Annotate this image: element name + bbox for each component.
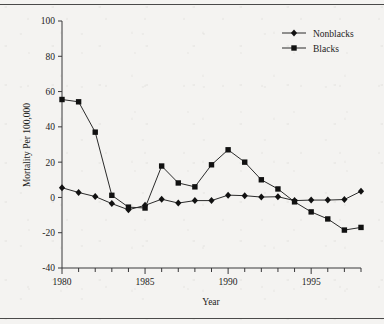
series-blacks bbox=[59, 97, 363, 233]
data-point-nonblacks-1981 bbox=[76, 189, 82, 196]
data-point-blacks-1987 bbox=[176, 180, 181, 185]
data-point-blacks-1995 bbox=[308, 209, 313, 214]
y-tick-label-0: 0 bbox=[50, 193, 55, 203]
y-axis-title: Mortality Per 100,000 bbox=[22, 103, 32, 187]
axis-lines bbox=[62, 21, 361, 268]
chart-canvas: -40-20020406080100 1980198519901995 Mort… bbox=[0, 0, 384, 324]
data-point-nonblacks-1987 bbox=[175, 200, 181, 207]
data-point-blacks-1993 bbox=[275, 186, 280, 191]
x-axis-title: Year bbox=[202, 297, 220, 307]
data-point-blacks-1992 bbox=[259, 177, 264, 182]
y-tick-label--20: -20 bbox=[42, 228, 55, 238]
legend-entry-nonblacks[interactable]: Nonblacks bbox=[282, 29, 354, 39]
x-tick-label-1990: 1990 bbox=[219, 277, 238, 287]
chart-legend: NonblacksBlacks bbox=[282, 29, 354, 54]
data-point-nonblacks-1989 bbox=[208, 197, 214, 204]
x-axis-ticks: 1980198519901995 bbox=[53, 268, 362, 287]
x-tick-label-1980: 1980 bbox=[53, 277, 72, 287]
legend-label-nonblacks: Nonblacks bbox=[313, 29, 354, 39]
data-point-blacks-1997 bbox=[342, 227, 347, 232]
data-point-blacks-1998 bbox=[358, 225, 363, 230]
y-tick-label-100: 100 bbox=[41, 16, 56, 26]
y-axis-ticks: -40-20020406080100 bbox=[41, 16, 62, 273]
x-tick-label-1985: 1985 bbox=[136, 277, 155, 287]
y-tick-label-60: 60 bbox=[46, 87, 56, 97]
data-point-nonblacks-1982 bbox=[92, 193, 98, 200]
x-tick-label-1995: 1995 bbox=[302, 277, 321, 287]
data-point-blacks-1989 bbox=[209, 162, 214, 167]
series-nonblacks bbox=[59, 184, 364, 213]
data-point-blacks-1980 bbox=[59, 97, 64, 102]
data-point-nonblacks-1998 bbox=[358, 188, 364, 195]
data-point-blacks-1988 bbox=[192, 184, 197, 189]
data-point-nonblacks-1983 bbox=[109, 200, 115, 207]
data-point-nonblacks-1986 bbox=[159, 196, 165, 203]
data-point-blacks-1981 bbox=[76, 99, 81, 104]
figure-page: -40-20020406080100 1980198519901995 Mort… bbox=[0, 0, 384, 324]
legend-label-blacks: Blacks bbox=[313, 44, 339, 54]
legend-marker-diamond bbox=[291, 30, 297, 37]
data-point-blacks-1985 bbox=[142, 205, 147, 210]
data-point-nonblacks-1988 bbox=[192, 197, 198, 204]
data-point-nonblacks-1997 bbox=[341, 196, 347, 203]
data-point-blacks-1996 bbox=[325, 216, 330, 221]
data-series-layer bbox=[59, 97, 364, 233]
y-tick-label-20: 20 bbox=[46, 158, 56, 168]
data-point-nonblacks-1996 bbox=[325, 197, 331, 204]
data-point-blacks-1990 bbox=[225, 147, 230, 152]
data-point-nonblacks-1993 bbox=[275, 193, 281, 200]
legend-marker-square bbox=[291, 45, 296, 50]
legend-entry-blacks[interactable]: Blacks bbox=[282, 44, 339, 54]
data-point-nonblacks-1995 bbox=[308, 197, 314, 204]
data-point-blacks-1994 bbox=[292, 199, 297, 204]
y-tick-label--40: -40 bbox=[42, 263, 55, 273]
y-tick-label-40: 40 bbox=[46, 122, 56, 132]
data-point-blacks-1982 bbox=[93, 129, 98, 134]
y-tick-label-80: 80 bbox=[46, 52, 56, 62]
data-point-nonblacks-1992 bbox=[258, 194, 264, 201]
data-point-nonblacks-1991 bbox=[242, 192, 248, 199]
data-point-nonblacks-1980 bbox=[59, 184, 65, 191]
data-point-blacks-1991 bbox=[242, 159, 247, 164]
mortality-line-chart: -40-20020406080100 1980198519901995 Mort… bbox=[0, 0, 384, 324]
data-point-blacks-1983 bbox=[109, 193, 114, 198]
data-point-blacks-1984 bbox=[126, 204, 131, 209]
data-point-nonblacks-1990 bbox=[225, 192, 231, 199]
data-point-blacks-1986 bbox=[159, 163, 164, 168]
